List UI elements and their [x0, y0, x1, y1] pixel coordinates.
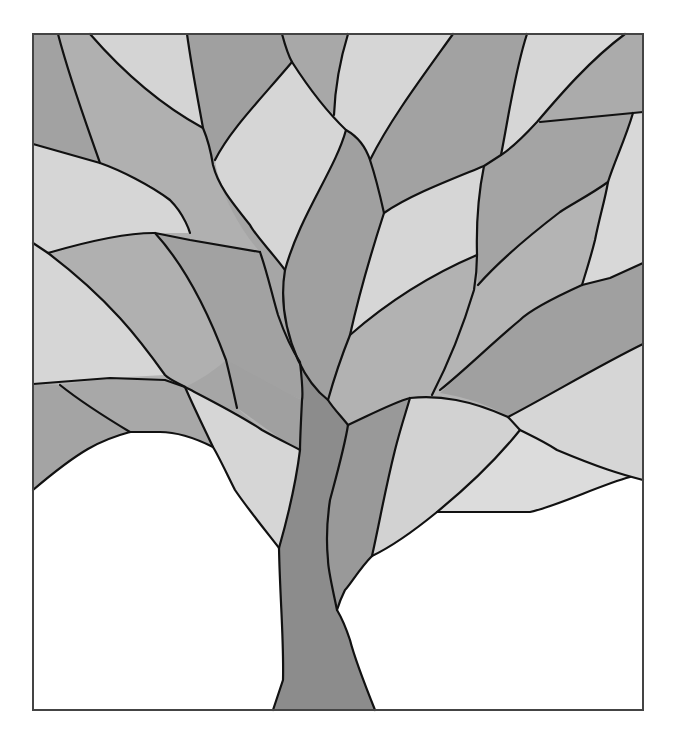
stained-glass-tree-artwork: [0, 0, 675, 748]
